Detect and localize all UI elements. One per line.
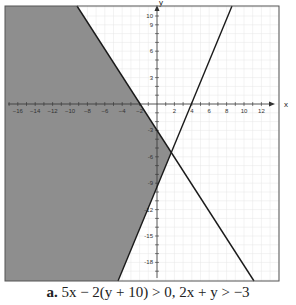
svg-text:10: 10	[146, 13, 153, 19]
problem-label: a.	[46, 284, 57, 300]
svg-text:-18: -18	[144, 259, 153, 265]
svg-text:2: 2	[173, 108, 177, 114]
svg-text:−12: −12	[48, 108, 59, 114]
svg-text:-9: -9	[148, 180, 154, 186]
shaded-region	[5, 6, 171, 281]
svg-text:-3: -3	[148, 127, 154, 133]
problem-caption: a. 5x − 2(y + 10) > 0, 2x + y > −3	[0, 284, 296, 301]
svg-text:-6: -6	[148, 154, 154, 160]
svg-text:−6: −6	[101, 108, 109, 114]
svg-text:−10: −10	[65, 108, 76, 114]
svg-text:-15: -15	[144, 233, 153, 239]
svg-text:−16: −16	[13, 108, 24, 114]
svg-text:4: 4	[190, 108, 194, 114]
svg-text:−4: −4	[119, 108, 127, 114]
inequality-graph: −16−14−12−10−8−6−4−22468101210963-3-6-9-…	[0, 0, 296, 284]
x-axis-label: x	[284, 100, 288, 109]
svg-text:−8: −8	[84, 108, 92, 114]
svg-text:6: 6	[208, 108, 212, 114]
svg-text:−14: −14	[30, 108, 41, 114]
svg-text:8: 8	[225, 108, 229, 114]
svg-text:12: 12	[258, 108, 265, 114]
svg-text:10: 10	[241, 108, 248, 114]
problem-expression: 5x − 2(y + 10) > 0, 2x + y > −3	[61, 284, 249, 300]
